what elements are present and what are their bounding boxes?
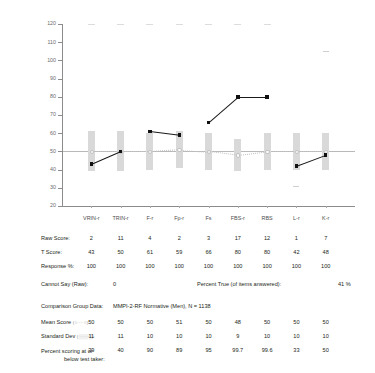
cell-standard-dev-fs: 10 (197, 334, 221, 340)
t-score-data-point[interactable] (324, 153, 327, 156)
x-axis-label-rbs: RBS (251, 216, 283, 221)
cell-mean-score-f-r: 50 (138, 320, 162, 326)
cell-response-pct-f-r: 100 (138, 264, 162, 270)
cell-percent-scoring-fs: 95 (197, 348, 221, 354)
y-axis-tick-label: 100 (34, 58, 56, 63)
row-cannot-say: Cannot Say (Raw): 0 Percent True (of ite… (0, 282, 375, 295)
y-axis-tick (58, 42, 62, 43)
extreme-value-mark (293, 186, 299, 187)
x-axis-tick (326, 206, 327, 208)
x-axis-label-fs: Fs (193, 216, 225, 221)
cell-response-pct-trin-r: 100 (109, 264, 133, 270)
cell-mean-score-fp-r: 51 (167, 320, 191, 326)
x-axis-tick (91, 206, 92, 208)
cell-standard-dev-fbs-r: 9 (226, 334, 250, 340)
cell-raw-score-fp-r: 2 (167, 236, 191, 242)
cell-t-score-fbs-r: 80 (226, 250, 250, 256)
x-axis-tick (209, 206, 210, 208)
cell-t-score-f-r: 61 (138, 250, 162, 256)
percent-true-value: 41 % (338, 282, 351, 288)
y-axis-tick-label: 110 (34, 40, 56, 45)
cell-standard-dev-k-r: 10 (314, 334, 338, 340)
cell-mean-score-fs: 50 (197, 320, 221, 326)
cell-t-score-rbs: 80 (255, 250, 279, 256)
cell-percent-scoring-fp-r: 89 (167, 348, 191, 354)
x-axis-label-l-r: L-r (280, 216, 312, 221)
cell-percent-scoring-k-r: 50 (314, 348, 338, 354)
y-axis-tick-label: 60 (34, 131, 56, 136)
x-axis-label-vrin-r: VRIN-r (75, 216, 107, 221)
validity-scale-profile-chart: 1201101009080706050403020 VRIN-rTRIN-rF-… (0, 0, 375, 232)
cell-response-pct-l-r: 100 (284, 264, 308, 270)
x-axis-tick (296, 206, 297, 208)
t-score-line-segment (209, 97, 239, 123)
y-axis-tick-label: 70 (34, 112, 56, 117)
row-label-response-pct: Response %: (41, 264, 74, 270)
y-axis-tick-label: 20 (34, 203, 56, 208)
cell-raw-score-fs: 3 (197, 236, 221, 242)
ceiling-mark (264, 24, 271, 25)
cell-percent-scoring-f-r: 90 (138, 348, 162, 354)
cell-response-pct-fbs-r: 100 (226, 264, 250, 270)
y-axis-tick (58, 115, 62, 116)
mean-score-line (267, 151, 296, 153)
row-label-raw-score: Raw Score: (41, 236, 70, 242)
ceiling-mark (176, 24, 183, 25)
cell-response-pct-k-r: 100 (314, 264, 338, 270)
cell-mean-score-k-r: 50 (314, 320, 338, 326)
y-axis-tick-label: 40 (34, 167, 56, 172)
mean-score-marker (90, 150, 94, 154)
x-axis-label-trin-r: TRIN-r (105, 216, 137, 221)
cell-percent-scoring-rbs: 99.6 (255, 348, 279, 354)
extreme-value-mark (323, 51, 329, 52)
mean-score-text: Mean Score (41, 319, 71, 325)
t-score-data-point[interactable] (178, 133, 181, 136)
x-axis-label-k-r: K-r (310, 216, 342, 221)
ceiling-mark (88, 24, 95, 25)
t-score-data-point[interactable] (207, 121, 210, 124)
t-score-data-point[interactable] (295, 164, 298, 167)
cell-t-score-vrin-r: 43 (79, 250, 103, 256)
y-axis-tick (58, 206, 62, 207)
cell-response-pct-vrin-r: 100 (79, 264, 103, 270)
t-score-data-point[interactable] (90, 162, 93, 165)
cell-standard-dev-fp-r: 10 (167, 334, 191, 340)
row-comparison-group: Comparison Group Data: MMPI-2-RF Normati… (0, 304, 375, 317)
cell-standard-dev-l-r: 10 (284, 334, 308, 340)
t-score-data-point[interactable] (148, 130, 151, 133)
cell-mean-score-trin-r: 50 (109, 320, 133, 326)
cell-t-score-k-r: 48 (314, 250, 338, 256)
x-axis-tick (121, 206, 122, 208)
cell-raw-score-f-r: 4 (138, 236, 162, 242)
y-axis-tick-label: 90 (34, 76, 56, 81)
mean-score-line (121, 151, 150, 153)
x-axis-label-fbs-r: FBS-r (222, 216, 254, 221)
cell-mean-score-rbs: 50 (255, 320, 279, 326)
y-axis-tick (58, 97, 62, 98)
mean-score-marker (295, 150, 299, 154)
y-axis-tick-label: 50 (34, 149, 56, 154)
cell-standard-dev-rbs: 10 (255, 334, 279, 340)
cannot-say-value: 0 (113, 282, 116, 288)
t-score-data-point[interactable] (119, 150, 122, 153)
cell-standard-dev-f-r: 10 (138, 334, 162, 340)
cell-standard-dev-vrin-r: 11 (79, 334, 103, 340)
y-axis-tick-label: 80 (34, 94, 56, 99)
x-axis-tick (179, 206, 180, 208)
mean-score-marker (265, 150, 269, 154)
comparison-group-value: MMPI-2-RF Normative (Men), N = 1138 (113, 304, 211, 310)
y-axis-tick (58, 188, 62, 189)
y-axis-tick (58, 151, 62, 152)
cell-mean-score-vrin-r: 50 (79, 320, 103, 326)
cell-raw-score-k-r: 7 (314, 236, 338, 242)
t-score-data-point[interactable] (265, 95, 268, 98)
t-score-data-point[interactable] (236, 95, 239, 98)
t-score-line-segment (238, 97, 267, 98)
cell-t-score-trin-r: 50 (109, 250, 133, 256)
y-axis-tick (58, 170, 62, 171)
cell-raw-score-vrin-r: 2 (79, 236, 103, 242)
x-axis-label-fp-r: Fp-r (163, 216, 195, 221)
y-axis-tick (58, 79, 62, 80)
cell-mean-score-l-r: 50 (284, 320, 308, 326)
cell-raw-score-rbs: 12 (255, 236, 279, 242)
